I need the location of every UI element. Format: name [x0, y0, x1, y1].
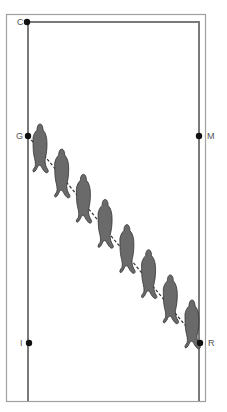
horse-icon [98, 199, 113, 248]
marker-dot-icon [196, 133, 202, 139]
marker-dot-icon [25, 133, 31, 139]
marker-dot-icon [24, 19, 30, 25]
horse-icon [142, 250, 157, 299]
horse-icon [76, 174, 91, 223]
marker-dot-icon [26, 340, 32, 346]
arena-inner-track [28, 22, 199, 401]
marker-label: R [208, 338, 215, 348]
marker-label: I [20, 338, 23, 348]
marker-label: C [17, 17, 24, 27]
marker-label: M [207, 131, 215, 141]
horse-group [33, 124, 200, 349]
marker-dot-icon [197, 340, 203, 346]
horse-icon [163, 275, 178, 324]
horse-icon [33, 124, 48, 173]
arena-diagram: C G M I R [0, 0, 227, 412]
marker-i: I [20, 338, 32, 348]
horse-icon [120, 225, 135, 274]
marker-label: G [16, 131, 23, 141]
horse-icon [55, 149, 70, 198]
